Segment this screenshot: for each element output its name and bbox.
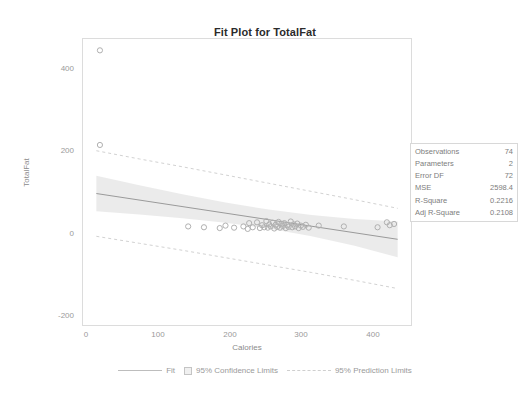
y-axis-tick: -200: [40, 311, 74, 320]
fit-line-swatch-icon: [118, 370, 162, 371]
statistics-table: Observations74Parameters2Error DF72MSE25…: [414, 146, 514, 218]
statistic-value: 72: [479, 170, 514, 182]
legend-label-fit: Fit: [166, 366, 175, 375]
statistics-row: Adj R-Square0.2108: [414, 206, 514, 218]
statistic-label: Parameters: [414, 158, 479, 170]
statistic-value: 74: [479, 146, 514, 158]
legend-label-prediction: 95% Prediction Limits: [335, 366, 412, 375]
statistics-row: R-Square0.2216: [414, 194, 514, 206]
y-axis-tick: 0: [40, 229, 74, 238]
x-axis-label: Calories: [82, 343, 412, 352]
prediction-limit-swatch-icon: [287, 370, 331, 371]
statistics-row: MSE2598.4: [414, 182, 514, 194]
plot-frame: [83, 39, 412, 326]
statistic-label: R-Square: [414, 194, 479, 206]
y-axis-label: TotalFat: [22, 133, 31, 213]
y-axis-tick: 200: [40, 146, 74, 155]
statistic-value: 2: [479, 158, 514, 170]
statistic-label: Adj R-Square: [414, 206, 479, 218]
statistics-row: Observations74: [414, 146, 514, 158]
legend-item-prediction: 95% Prediction Limits: [287, 366, 412, 375]
statistic-value: 0.2108: [479, 206, 514, 218]
x-axis-tick: 400: [353, 330, 393, 339]
confidence-band-swatch-icon: [184, 367, 192, 375]
regression-plot-svg: [82, 38, 412, 326]
statistic-value: 0.2216: [479, 194, 514, 206]
page-title: Fit Plot for TotalFat: [0, 26, 530, 38]
statistics-row: Error DF72: [414, 170, 514, 182]
statistic-label: Observations: [414, 146, 479, 158]
x-axis-tick: 0: [66, 330, 106, 339]
x-axis-tick: 100: [138, 330, 178, 339]
plot-area: [82, 38, 412, 326]
statistics-row: Parameters2: [414, 158, 514, 170]
legend-item-confidence: 95% Confidence Limits: [184, 366, 278, 375]
fit-statistics-box: Observations74Parameters2Error DF72MSE25…: [410, 143, 518, 222]
statistic-label: Error DF: [414, 170, 479, 182]
legend: Fit 95% Confidence Limits 95% Prediction…: [0, 366, 530, 375]
y-axis-tick: 400: [40, 64, 74, 73]
statistic-value: 2598.4: [479, 182, 514, 194]
legend-label-confidence: 95% Confidence Limits: [196, 366, 278, 375]
x-axis-tick: 300: [281, 330, 321, 339]
legend-item-fit: Fit: [118, 366, 175, 375]
statistic-label: MSE: [414, 182, 479, 194]
fit-plot-page: Fit Plot for TotalFat TotalFat Calories …: [0, 0, 530, 410]
x-axis-tick: 200: [210, 330, 250, 339]
